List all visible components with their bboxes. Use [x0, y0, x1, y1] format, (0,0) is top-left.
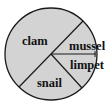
slice-label-mussel: mussel	[69, 39, 106, 53]
slice-label-clam: clam	[22, 34, 48, 48]
slice-label-limpet: limpet	[70, 58, 105, 72]
slice-label-snail: snail	[37, 76, 63, 90]
pie-chart: clam mussel limpet snail	[0, 0, 112, 108]
pie-chart-svg: clam mussel limpet snail	[0, 0, 112, 108]
